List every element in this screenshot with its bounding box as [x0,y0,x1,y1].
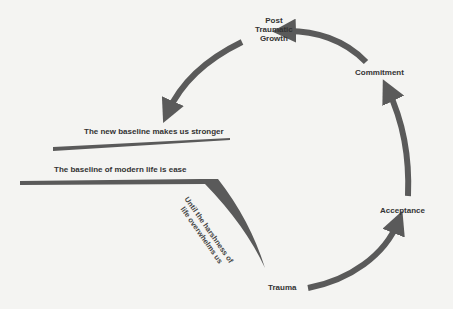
arrow-acceptance-to-commitment [388,90,408,196]
node-acceptance: Acceptance [380,206,425,215]
modern-baseline-label: The baseline of modern life is ease [54,165,187,174]
arrow-trauma-to-acceptance [308,222,398,288]
node-post-traumatic-growth: Post Traumatic Growth [255,16,293,43]
arrow-commitment-to-growth [284,31,366,62]
arrow-growth-to-baseline [168,42,242,112]
new-baseline-line [53,138,230,151]
node-commitment: Commitment [355,68,404,77]
new-baseline-label: The new baseline makes us stronger [84,127,224,136]
node-trauma: Trauma [268,283,296,292]
